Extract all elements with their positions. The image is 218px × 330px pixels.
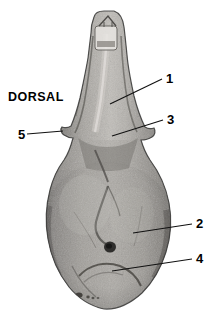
callout-label-4: 4: [196, 252, 203, 265]
leader-line-4: [112, 259, 192, 271]
callout-leader-lines: [0, 0, 218, 330]
orientation-label-dorsal: DORSAL: [8, 91, 64, 104]
callout-label-3: 3: [167, 113, 174, 126]
callout-label-1: 1: [166, 72, 173, 85]
callout-label-5: 5: [18, 128, 25, 141]
leader-line-3: [112, 120, 163, 136]
callout-label-2: 2: [196, 217, 203, 230]
leader-line-2: [133, 224, 192, 233]
leader-line-5: [27, 131, 63, 134]
leader-line-1: [110, 79, 162, 104]
figure-container: 1 3 5 2 4 DORSAL: [0, 0, 218, 330]
